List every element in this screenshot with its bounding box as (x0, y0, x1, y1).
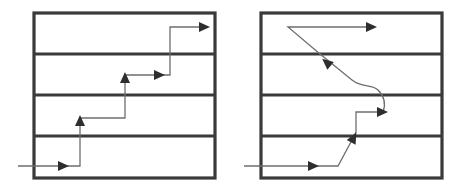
arrowhead-icon (319, 55, 334, 70)
arrowhead-icon (154, 70, 165, 80)
arrowhead-icon (120, 72, 130, 83)
arrowhead-icon (199, 22, 210, 32)
arrowhead-icon (308, 161, 319, 171)
arrowhead-icon (366, 22, 377, 32)
arrowhead-icon (58, 161, 69, 171)
diagram-svg (0, 0, 460, 192)
arrowhead-icon (377, 107, 388, 117)
staircase-progression-diagram (18, 13, 215, 178)
diagram-canvas (0, 0, 460, 192)
nonlinear-progression-diagram (244, 13, 442, 178)
arrowhead-icon (75, 115, 85, 126)
